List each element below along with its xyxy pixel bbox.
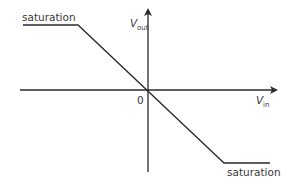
vout-vin-diagram: saturation saturation 0 V out V in (0, 0, 288, 189)
svg-text:out: out (137, 24, 149, 32)
transfer-curve (23, 25, 270, 163)
saturation-top-label: saturation (22, 11, 76, 23)
y-axis-label: V out (130, 17, 149, 32)
x-axis-label: V in (256, 94, 269, 109)
origin-label: 0 (137, 94, 144, 106)
saturation-bottom-label: saturation (227, 166, 281, 178)
svg-text:in: in (263, 101, 269, 109)
